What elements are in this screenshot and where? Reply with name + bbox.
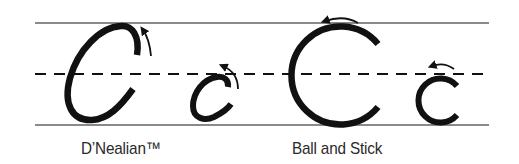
ball-and-stick-caption: Ball and Stick	[292, 139, 382, 159]
letter-formation-diagram	[0, 0, 519, 164]
ball-stick-lowercase-arrow-icon	[432, 64, 454, 69]
dnealian-uppercase-c	[68, 26, 138, 120]
ball-stick-lowercase-c	[418, 79, 457, 123]
dnealian-lowercase-c	[193, 77, 231, 119]
ball-stick-uppercase-c	[291, 26, 378, 124]
dnealian-caption: D’Nealian™	[81, 139, 161, 159]
dnealian-uppercase-arrow-icon	[143, 30, 151, 56]
